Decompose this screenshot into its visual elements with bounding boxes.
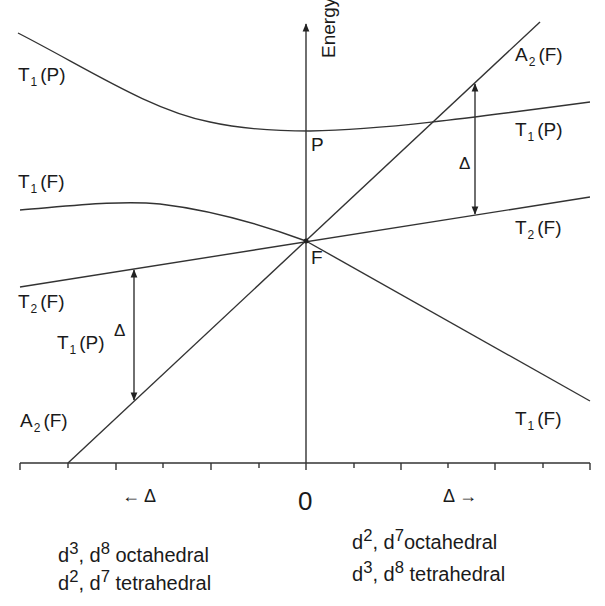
energy-axis-label: Energy [318, 0, 340, 58]
line-t1-f-right [306, 241, 590, 401]
x-axis-ticks [20, 463, 590, 470]
left-caption-line2: d2, d7 tetrahedral [58, 569, 211, 593]
term-p-label: P [311, 135, 324, 154]
left-label-a2-f: A2(F) [20, 411, 68, 434]
term-f-label: F [311, 248, 323, 267]
x-left-delta-label: ← Δ [122, 487, 156, 505]
f-crossing-point [304, 239, 309, 244]
left-label-t1-f: T1(F) [18, 172, 65, 195]
right-label-a2-f: A2(F) [515, 45, 563, 68]
left-caption-line1: d3, d8 octahedral [58, 541, 209, 565]
left-label-t2-f: T2(F) [18, 292, 65, 315]
right-label-t1-p: T1(P) [515, 120, 563, 143]
line-t1-f-left [20, 203, 306, 241]
delta-label-left: Δ [114, 322, 125, 339]
x-right-delta-label: Δ → [443, 487, 477, 505]
left-label-t1-p-top: T1(P) [18, 65, 66, 88]
right-label-t1-f: T1(F) [515, 409, 562, 432]
right-label-t2-f: T2(F) [515, 218, 562, 241]
x-zero-label: 0 [298, 486, 312, 517]
delta-label-right: Δ [459, 155, 470, 172]
right-caption-line2: d3, d8 tetrahedral [352, 560, 505, 584]
right-caption-line1: d2, d7octahedral [352, 528, 497, 552]
left-label-t1-p-lower: T1(P) [57, 333, 105, 356]
line-t1-p [18, 33, 590, 131]
